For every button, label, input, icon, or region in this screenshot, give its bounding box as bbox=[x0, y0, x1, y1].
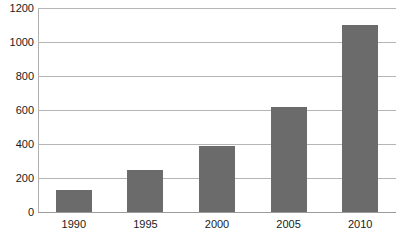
bar-slot bbox=[253, 8, 325, 212]
x-tick-label-1995: 1995 bbox=[133, 216, 157, 232]
y-tick-label-600: 600 bbox=[0, 105, 34, 116]
bar-slot bbox=[324, 8, 396, 212]
x-tick-label-2010: 2010 bbox=[348, 216, 372, 232]
bar-slot bbox=[181, 8, 253, 212]
bar-2010[interactable] bbox=[342, 25, 378, 212]
gridline-0 bbox=[38, 212, 396, 213]
y-axis-tick-labels: 020040060080010001200 bbox=[0, 0, 34, 236]
y-tick-label-200: 200 bbox=[0, 173, 34, 184]
y-tick-label-800: 800 bbox=[0, 71, 34, 82]
y-tick-label-1200: 1200 bbox=[0, 3, 34, 14]
x-axis-tick-labels: 19901995200020052010 bbox=[38, 216, 396, 234]
bar-slot bbox=[38, 8, 110, 212]
x-tick-label-2000: 2000 bbox=[205, 216, 229, 232]
bar-1995[interactable] bbox=[127, 170, 163, 213]
y-tick-label-400: 400 bbox=[0, 139, 34, 150]
plot-area bbox=[38, 8, 396, 212]
bar-2000[interactable] bbox=[199, 146, 235, 212]
x-tick-label-1990: 1990 bbox=[62, 216, 86, 232]
y-tick-label-1000: 1000 bbox=[0, 37, 34, 48]
x-tick-label-2005: 2005 bbox=[276, 216, 300, 232]
bar-chart: 020040060080010001200 199019952000200520… bbox=[0, 0, 400, 236]
bar-1990[interactable] bbox=[56, 190, 92, 212]
bar-2005[interactable] bbox=[271, 107, 307, 212]
bar-slot bbox=[110, 8, 182, 212]
y-tick-label-0: 0 bbox=[0, 207, 34, 218]
